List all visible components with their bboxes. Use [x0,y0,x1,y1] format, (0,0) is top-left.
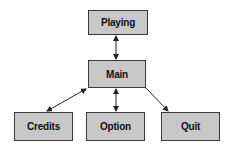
node-quit: Quit [161,112,220,141]
edge-main-quit [146,88,168,111]
edge-main-credits [47,89,86,111]
node-label: Quit [181,121,200,132]
node-main: Main [88,60,146,88]
node-playing: Playing [88,10,148,35]
node-credits: Credits [14,112,73,141]
node-label: Playing [101,17,135,28]
node-label: Option [100,121,131,132]
node-label: Credits [27,121,60,132]
node-label: Main [106,69,128,80]
node-option: Option [86,112,145,141]
